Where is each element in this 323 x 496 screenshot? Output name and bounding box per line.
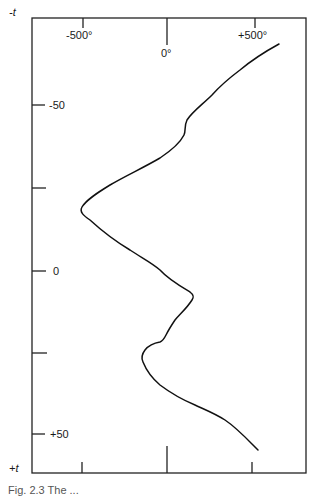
y-axis-bottom-label: +t (9, 462, 18, 474)
x-tick-label-zero: 0° (161, 47, 172, 59)
y-tick-label-minus50: -50 (49, 99, 65, 111)
data-curve (81, 44, 279, 450)
x-tick-label-minus500: -500° (66, 29, 92, 41)
y-tick-label-plus50: +50 (50, 428, 69, 440)
y-axis-top-label: -t (9, 6, 16, 18)
y-tick-label-zero: 0 (53, 265, 59, 277)
plot-frame (32, 18, 306, 473)
figure-caption: Fig. 2.3 The ... (8, 484, 79, 496)
x-tick-label-plus500: +500° (238, 29, 267, 41)
